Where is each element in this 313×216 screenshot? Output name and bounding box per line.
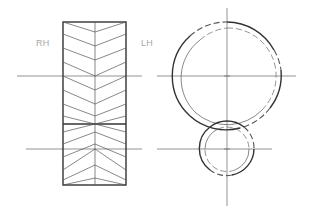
herringbone-side-view (63, 22, 126, 185)
upper-chevrons (63, 22, 126, 124)
horizontal-center-lines (17, 76, 296, 149)
lower-chevrons (63, 124, 126, 185)
gear-drawing (0, 0, 313, 216)
